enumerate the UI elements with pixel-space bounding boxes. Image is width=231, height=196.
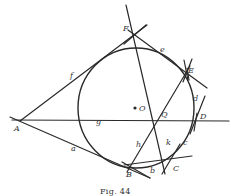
label-e: e [160,45,165,54]
label-g: g [96,117,101,126]
label-C: C [173,164,179,173]
label-E: E [187,66,194,75]
tangent-f [20,25,147,121]
figure-44-diagram: O A B C D E F Q a b c d e f g h k Fig. 4… [0,0,231,196]
label-c: c [183,138,188,147]
line-h [127,66,190,172]
label-d: d [193,94,198,103]
label-Q: Q [161,110,168,119]
line-k [126,5,165,174]
label-O: O [139,104,146,113]
label-h: h [136,140,141,149]
figure-caption: Fig. 44 [100,187,131,196]
label-D: D [199,112,207,121]
label-b: b [150,166,155,175]
line-g [12,120,229,121]
label-a: a [71,144,76,153]
label-A: A [13,124,20,133]
label-f: f [69,71,75,80]
tangent-e [128,30,207,88]
label-F: F [122,24,129,33]
label-k: k [166,138,171,147]
label-B: B [125,170,132,179]
center-dot [133,106,136,109]
